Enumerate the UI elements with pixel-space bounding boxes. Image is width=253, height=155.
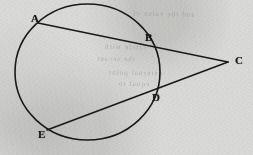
point-label-d: D	[152, 92, 160, 103]
secant-a-b-c-line	[38, 23, 228, 62]
geometry-figure: and the value of circle with the secant …	[0, 0, 253, 155]
point-label-a: A	[31, 13, 39, 24]
secant-e-d-c-line	[47, 62, 228, 130]
circle-shape	[15, 4, 160, 140]
point-label-c: C	[235, 55, 243, 66]
point-label-b: B	[145, 32, 152, 43]
point-label-e: E	[38, 129, 45, 140]
